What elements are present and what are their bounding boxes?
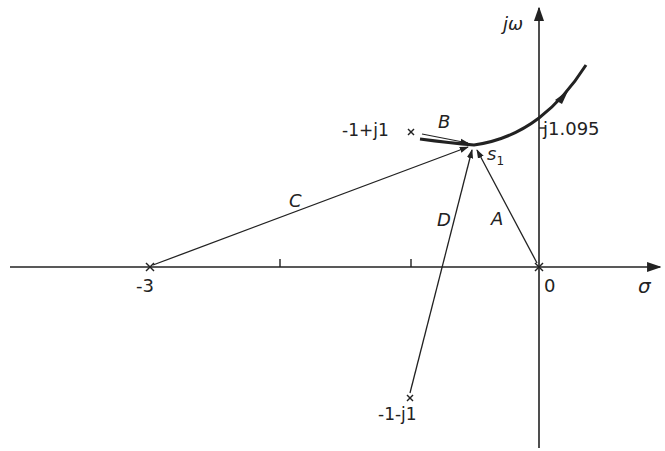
vector-label-D: D bbox=[437, 209, 451, 230]
pole-lower bbox=[407, 395, 413, 401]
vector-D bbox=[410, 150, 472, 393]
upper-pole-label: -1+j1 bbox=[342, 120, 389, 140]
test-point-label: s1 bbox=[487, 143, 504, 168]
real-axis-label: σ bbox=[638, 274, 652, 298]
vector-label-B: B bbox=[438, 111, 450, 132]
vector-C bbox=[153, 147, 468, 265]
pole-upper bbox=[408, 129, 414, 135]
minus3-label: -3 bbox=[136, 275, 154, 296]
imag-axis-label: jω bbox=[500, 13, 523, 34]
j1095-label: j1.095 bbox=[542, 118, 600, 139]
root-locus-diagram: jω σ 0 -3 j1.095 -1+j1 -1-j1 B C D A s1 bbox=[0, 0, 665, 451]
origin-label: 0 bbox=[544, 275, 555, 296]
vector-label-C: C bbox=[289, 190, 302, 211]
lower-pole-label: -1-j1 bbox=[378, 404, 417, 424]
test-point-subscript: 1 bbox=[496, 154, 504, 168]
vector-label-A: A bbox=[490, 208, 503, 229]
test-point-letter: s bbox=[487, 143, 496, 164]
vector-A bbox=[477, 150, 537, 263]
